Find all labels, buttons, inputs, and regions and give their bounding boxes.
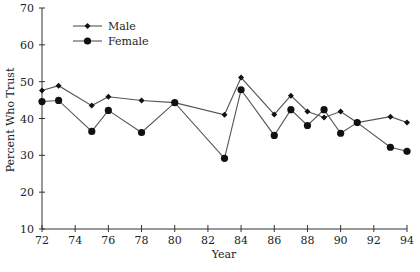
- y-tick-label: 30: [20, 149, 34, 162]
- circle-marker: [403, 148, 410, 155]
- x-tick-label: 90: [334, 234, 348, 247]
- legend-label: Female: [108, 35, 149, 48]
- x-tick-label: 92: [367, 234, 381, 247]
- circle-marker: [320, 106, 327, 113]
- x-tick-label: 88: [300, 234, 314, 247]
- series-group: [38, 75, 410, 162]
- circle-marker: [304, 122, 311, 129]
- x-tick-label: 82: [201, 234, 215, 247]
- diamond-marker: [222, 112, 228, 118]
- circle-marker: [38, 98, 45, 105]
- line-chart: 10203040506070727476788082848688909294 M…: [0, 0, 420, 272]
- x-tick-label: 74: [68, 234, 82, 247]
- circle-marker: [171, 99, 178, 106]
- x-tick-label: 84: [234, 234, 248, 247]
- circle-marker: [221, 155, 228, 162]
- circle-marker: [55, 97, 62, 104]
- x-tick-label: 76: [101, 234, 115, 247]
- circle-marker: [105, 107, 112, 114]
- circle-marker: [88, 128, 95, 135]
- legend: MaleFemale: [73, 20, 149, 48]
- circle-marker: [237, 86, 244, 93]
- x-tick-label: 86: [267, 234, 281, 247]
- circle-marker: [354, 119, 361, 126]
- circle-marker: [138, 129, 145, 136]
- x-axis-label: Year: [211, 248, 237, 261]
- x-tick-label: 94: [400, 234, 414, 247]
- x-tick-label: 78: [135, 234, 149, 247]
- circle-marker: [271, 132, 278, 139]
- y-tick-label: 20: [20, 186, 34, 199]
- legend-item-female: Female: [73, 35, 149, 48]
- y-tick-label: 70: [20, 2, 34, 15]
- series-female: [38, 86, 410, 162]
- series-line: [42, 90, 407, 159]
- diamond-marker: [387, 114, 393, 120]
- y-tick-label: 60: [20, 39, 34, 52]
- diamond-marker: [321, 114, 327, 120]
- y-tick-label: 50: [20, 76, 34, 89]
- diamond-marker: [139, 97, 145, 103]
- diamond-marker: [338, 109, 344, 115]
- y-tick-label: 40: [20, 113, 34, 126]
- series-male: [39, 75, 410, 126]
- diamond-marker: [39, 88, 45, 94]
- legend-label: Male: [108, 20, 136, 33]
- diamond-marker: [56, 83, 62, 89]
- diamond-marker: [85, 23, 91, 29]
- circle-marker: [287, 106, 294, 113]
- circle-marker: [84, 37, 91, 44]
- x-tick-label: 72: [35, 234, 49, 247]
- x-tick-label: 80: [168, 234, 182, 247]
- diamond-marker: [105, 94, 111, 100]
- legend-item-male: Male: [73, 20, 136, 33]
- y-axis-label: Percent Who Trust: [4, 67, 17, 172]
- diamond-marker: [404, 120, 410, 126]
- y-tick-label: 10: [20, 223, 34, 236]
- circle-marker: [387, 144, 394, 151]
- circle-marker: [337, 130, 344, 137]
- diamond-marker: [89, 103, 95, 109]
